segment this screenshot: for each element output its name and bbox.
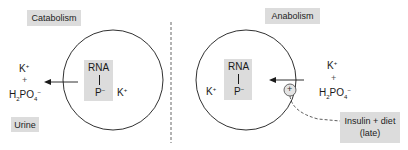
left-phosphate: H2PO4− — [9, 90, 41, 100]
left-extracellular-k: K+ — [19, 64, 29, 74]
left-plus-sign: + — [22, 76, 27, 85]
right-arrowhead — [269, 77, 276, 83]
stimulus-line2: (late) — [360, 128, 381, 139]
stimulus-dashed-path — [290, 96, 340, 121]
left-arrowhead — [44, 79, 51, 85]
right-phosphate: H2PO4− — [319, 88, 351, 98]
left-phosphate-group: P− — [95, 88, 105, 98]
left-cell-circle — [63, 30, 163, 130]
right-extracellular-k: K+ — [327, 61, 337, 71]
right-intracellular-k: K+ — [206, 87, 216, 97]
catabolism-label: Catabolism — [27, 10, 81, 26]
urine-label: Urine — [11, 117, 39, 132]
right-rna-label: RNA — [228, 62, 249, 72]
left-rna-bond — [99, 75, 100, 85]
anabolism-label: Anabolism — [265, 8, 320, 24]
right-plus-sign: + — [331, 74, 336, 83]
left-rna-label: RNA — [88, 63, 109, 73]
stimulus-label: Insulin + diet (late) — [340, 112, 400, 143]
right-phosphate-group: P− — [234, 87, 244, 97]
left-intracellular-k: K+ — [117, 88, 127, 98]
stimulus-line1: Insulin + diet — [345, 116, 396, 127]
right-rna-bond — [238, 74, 239, 84]
stimulator-symbol: + — [287, 85, 292, 94]
